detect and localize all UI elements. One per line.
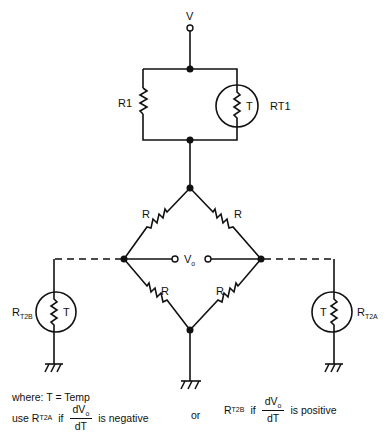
- ground-icon-center: [181, 381, 201, 389]
- vo-terminal-left: [172, 256, 178, 262]
- svg-text:R: R: [161, 285, 169, 297]
- svg-text:R: R: [142, 208, 150, 220]
- r1-label: R1: [118, 97, 132, 109]
- bridge-circuit-diagram: V R1 T RT1 R R R R Vo T RT2B: [0, 0, 387, 448]
- supply-terminal: [187, 25, 193, 31]
- negative-condition: use RT2A if dVo dT is negative: [12, 403, 148, 432]
- supply-label: V: [186, 10, 194, 22]
- rt2b-label: RT2B: [12, 306, 33, 320]
- where-note: where: T = Temp: [12, 391, 90, 403]
- ground-icon-left: [45, 364, 63, 372]
- rt2a-thermistor-icon: [312, 292, 352, 332]
- vo-terminal-right: [205, 256, 211, 262]
- svg-text:R: R: [234, 208, 242, 220]
- dvo-dt-fraction: dVo dT: [70, 403, 93, 432]
- ground-icon-right: [325, 364, 343, 372]
- bridge-resistor-bottom-left: [124, 259, 190, 330]
- dvo-dt-fraction-2: dVo dT: [262, 395, 285, 424]
- svg-text:T: T: [63, 306, 70, 318]
- rt1-t-label: T: [246, 100, 253, 112]
- rt1-label: RT1: [270, 100, 291, 112]
- or-text: or: [191, 409, 200, 421]
- vo-label: Vo: [184, 253, 195, 267]
- svg-text:T: T: [320, 306, 327, 318]
- rt2b-thermistor-icon: [36, 292, 76, 332]
- positive-condition: RT2B if dVo dT is positive: [224, 395, 337, 424]
- bridge-resistor-bottom-right: [190, 259, 261, 330]
- bridge-resistor-top-left: [124, 188, 190, 259]
- bridge-resistor-top-right: [190, 188, 261, 259]
- rt2a-label: RT2A: [357, 306, 378, 320]
- r1-resistor: [140, 88, 147, 114]
- svg-text:R: R: [216, 285, 224, 297]
